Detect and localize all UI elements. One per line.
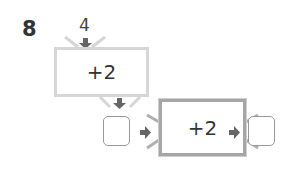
machine-operation: +2: [162, 116, 243, 140]
machine-operation: +2: [57, 60, 146, 84]
problem-number: 8: [22, 17, 37, 41]
arrow-down-icon: [113, 98, 126, 109]
function-machine-1: +2: [54, 47, 149, 97]
answer-box-1[interactable]: [103, 116, 130, 146]
answer-box-2[interactable]: [248, 116, 275, 146]
input-value: 4: [79, 15, 90, 35]
function-machine-2: +2: [159, 99, 246, 156]
arrow-right-icon: [140, 126, 151, 139]
